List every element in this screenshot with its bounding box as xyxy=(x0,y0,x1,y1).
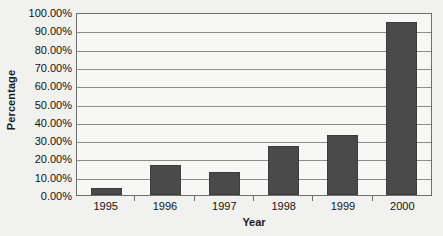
y-axis-tick-label: 80.00% xyxy=(35,44,72,56)
x-axis-tick-label: 1995 xyxy=(76,200,135,216)
bar-slot xyxy=(136,14,195,195)
bar-slot xyxy=(254,14,313,195)
y-axis-tick-labels: 0.00%10.00%20.00%30.00%40.00%50.00%60.00… xyxy=(20,13,75,196)
y-axis-tick-label: 50.00% xyxy=(35,99,72,111)
y-axis-tick-label: 100.00% xyxy=(29,7,72,19)
y-axis-tick-label: 60.00% xyxy=(35,80,72,92)
y-axis-tick-label: 40.00% xyxy=(35,117,72,129)
x-axis-tick-label: 1997 xyxy=(195,200,254,216)
bar-1998[interactable] xyxy=(268,146,299,195)
y-axis-tick-label: 30.00% xyxy=(35,135,72,147)
y-axis-title: Percentage xyxy=(0,0,22,200)
y-axis-tick-label: 70.00% xyxy=(35,62,72,74)
x-axis-tick-labels: 199519961997199819992000 xyxy=(76,200,432,216)
bar-1997[interactable] xyxy=(209,172,240,195)
x-axis-tick-label: 1999 xyxy=(313,200,372,216)
plot-area xyxy=(76,13,432,196)
bar-slot xyxy=(77,14,136,195)
x-axis-tick-label: 1998 xyxy=(254,200,313,216)
bar-chart: Percentage 0.00%10.00%20.00%30.00%40.00%… xyxy=(0,0,443,236)
bar-1996[interactable] xyxy=(150,165,181,195)
x-axis-tick-label: 2000 xyxy=(373,200,432,216)
y-axis-tick-label: 10.00% xyxy=(35,172,72,184)
y-axis-tick-label: 90.00% xyxy=(35,25,72,37)
y-axis-title-label: Percentage xyxy=(5,70,17,130)
bar-slot xyxy=(195,14,254,195)
x-axis-title: Year xyxy=(76,216,432,228)
bars-layer xyxy=(77,14,431,195)
y-axis-tick-label: 0.00% xyxy=(41,190,72,202)
bar-2000[interactable] xyxy=(386,22,417,195)
bar-slot xyxy=(372,14,431,195)
bar-slot xyxy=(313,14,372,195)
bar-1995[interactable] xyxy=(91,188,122,195)
y-axis-tick-label: 20.00% xyxy=(35,153,72,165)
x-axis-tick-label: 1996 xyxy=(135,200,194,216)
bar-1999[interactable] xyxy=(327,135,358,195)
